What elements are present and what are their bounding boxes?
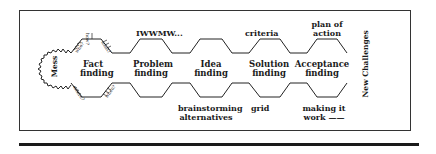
stage-solution-finding: Solution finding [249,60,289,78]
stage-acceptance-finding: Acceptance finding [294,60,350,78]
top-wave [71,39,347,53]
new-challenges-label: New Challenges [361,38,370,98]
stage-fact-finding: Fact finding [80,60,106,78]
note-iwwmw: IWWMW... [136,29,183,38]
note-criteria: criteria [245,29,278,38]
note-grid: grid [251,104,269,113]
note-making-it-work: making it work —— [299,104,349,122]
stage-problem-finding: Problem finding [133,60,169,78]
note-plan-of-action: plan of action [306,20,348,38]
mess-label: Mess [50,56,59,78]
stage-idea-finding: Idea finding [193,60,229,78]
note-brainstorming: brainstorming alternatives [178,104,234,122]
bottom-rule [19,143,419,146]
question-how: how? [85,33,90,45]
